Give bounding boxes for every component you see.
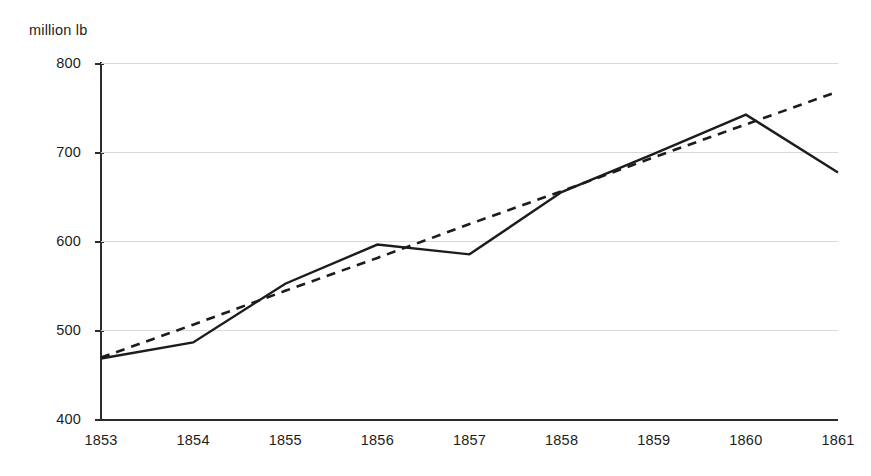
x-tick-label-1860: 1860: [729, 432, 762, 448]
y-tick-label-400: 400: [35, 411, 81, 427]
actual-line-series: [101, 115, 838, 359]
y-tick-label-700: 700: [35, 144, 81, 160]
x-tick-label-1857: 1857: [453, 432, 486, 448]
chart-container: million lb 400500600700800 1853185418551…: [0, 0, 871, 476]
x-tick-label-1853: 1853: [84, 432, 117, 448]
y-tick-label-600: 600: [35, 233, 81, 249]
x-tick-label-1861: 1861: [821, 432, 854, 448]
gridline-400: [101, 419, 838, 421]
y-tick-label-800: 800: [35, 55, 81, 71]
x-tick-label-1855: 1855: [269, 432, 302, 448]
series-svg: [101, 63, 838, 419]
plot-area: [101, 63, 838, 419]
x-tick-label-1859: 1859: [637, 432, 670, 448]
y-tick-label-500: 500: [35, 322, 81, 338]
y-axis-unit-label: million lb: [29, 22, 87, 38]
x-tick-label-1854: 1854: [177, 432, 210, 448]
x-tick-label-1856: 1856: [361, 432, 394, 448]
trend-line-series: [101, 91, 838, 357]
x-tick-label-1858: 1858: [545, 432, 578, 448]
